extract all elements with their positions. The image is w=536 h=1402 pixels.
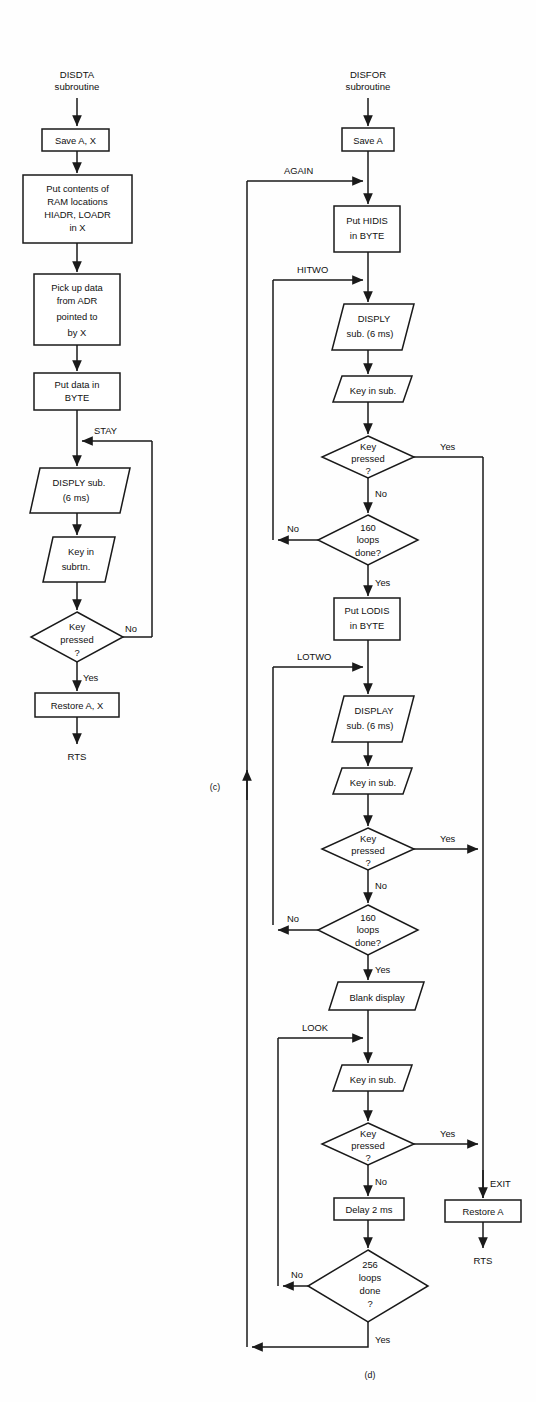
right-label-look: LOOK bbox=[302, 1022, 329, 1033]
right-flowchart: DISFOR subroutine Save A AGAIN Put HIDIS… bbox=[247, 69, 521, 1380]
right-node-160-loops-2-line-1: loops bbox=[357, 924, 380, 935]
right-node-save-a: Save A bbox=[342, 128, 394, 151]
right-node-160-loops-decision-2: 160 loops done? bbox=[318, 905, 418, 955]
right-node-key-pressed-1-line-1: pressed bbox=[351, 453, 384, 464]
right-node-put-lodis-line-1: in BYTE bbox=[350, 620, 384, 631]
left-node-put-contents-ram-line-2: HIADR, LOADR bbox=[44, 209, 111, 220]
right-entry-sublabel: subroutine bbox=[346, 81, 391, 92]
left-exit-label: RTS bbox=[67, 751, 86, 762]
left-node-key-pressed-line-2: ? bbox=[74, 647, 79, 658]
left-node-disply-sub-line-0: DISPLY sub. bbox=[53, 477, 106, 488]
right-node-display-sub-2: DISPLAY sub. (6 ms) bbox=[332, 696, 414, 742]
left-node-key-pressed-line-0: Key bbox=[69, 621, 85, 632]
right-label-no-5: No bbox=[375, 1176, 387, 1187]
right-node-key-pressed-decision-1: Key pressed ? bbox=[322, 436, 414, 478]
right-label-yes-4: Yes bbox=[375, 964, 391, 975]
right-node-restore-a-line-0: Restore A bbox=[462, 1206, 504, 1217]
right-node-256-loops-line-1: loops bbox=[359, 1272, 382, 1283]
right-node-160-loops-1-line-2: done? bbox=[355, 547, 381, 558]
left-node-save-a-x: Save A, X bbox=[42, 129, 109, 151]
left-node-pick-up-data-line-1: from ADR bbox=[57, 295, 98, 306]
left-entry-label: DISDTA bbox=[60, 69, 95, 80]
right-node-key-pressed-2-line-2: ? bbox=[365, 857, 370, 868]
right-label-hitwo: HITWO bbox=[297, 264, 328, 275]
left-node-key-pressed-decision: Key pressed ? bbox=[31, 612, 123, 662]
right-node-256-loops-line-3: ? bbox=[367, 1298, 372, 1309]
right-label-again: AGAIN bbox=[284, 165, 313, 176]
right-node-key-pressed-decision-3: Key pressed ? bbox=[322, 1123, 414, 1165]
right-node-key-pressed-3-line-2: ? bbox=[365, 1152, 370, 1163]
right-node-key-pressed-3-line-1: pressed bbox=[351, 1140, 384, 1151]
left-node-put-contents-ram-line-1: RAM locations bbox=[47, 196, 108, 207]
right-node-display-sub-2-line-0: DISPLAY bbox=[355, 705, 395, 716]
left-node-key-in-subrtn: Key in subrtn. bbox=[43, 537, 115, 582]
left-label-yes: Yes bbox=[83, 672, 99, 683]
right-node-blank-display-line-0: Blank display bbox=[349, 992, 405, 1003]
left-node-pick-up-data-line-2: pointed to bbox=[56, 311, 97, 322]
left-node-put-data-in-byte-line-1: BYTE bbox=[65, 392, 90, 403]
right-node-160-loops-2-line-0: 160 bbox=[360, 912, 376, 923]
right-label-no-6: No bbox=[291, 1269, 303, 1280]
left-flowchart: DISDTA subroutine Save A, X Put contents… bbox=[23, 69, 220, 792]
right-node-256-loops-line-2: done bbox=[360, 1285, 381, 1296]
right-label-yes-3: Yes bbox=[440, 833, 456, 844]
right-node-put-lodis-line-0: Put LODIS bbox=[345, 605, 390, 616]
right-node-key-in-sub-3: Key in sub. bbox=[333, 1065, 412, 1091]
right-label-no-2: No bbox=[287, 523, 299, 534]
right-label-no-3: No bbox=[375, 880, 387, 891]
right-node-key-pressed-1-line-0: Key bbox=[360, 441, 376, 452]
left-node-put-data-in-byte: Put data in BYTE bbox=[34, 373, 120, 410]
left-label-no: No bbox=[125, 623, 137, 634]
right-node-key-pressed-3-line-0: Key bbox=[360, 1128, 376, 1139]
right-label-lotwo: LOTWO bbox=[297, 651, 331, 662]
right-node-key-pressed-1-line-2: ? bbox=[365, 465, 370, 476]
right-label-yes-2: Yes bbox=[375, 577, 391, 588]
right-node-key-pressed-2-line-1: pressed bbox=[351, 845, 384, 856]
right-node-display-sub-2-line-1: sub. (6 ms) bbox=[347, 720, 394, 731]
left-node-put-contents-ram-line-0: Put contents of bbox=[46, 183, 109, 194]
left-node-put-data-in-byte-line-0: Put data in bbox=[55, 379, 100, 390]
right-label-no-1: No bbox=[375, 488, 387, 499]
right-node-key-in-sub-1: Key in sub. bbox=[333, 376, 412, 402]
left-node-disply-sub-line-1: (6 ms) bbox=[63, 492, 90, 503]
right-node-delay-2ms: Delay 2 ms bbox=[334, 1198, 404, 1220]
left-node-restore-a-x-line-0: Restore A, X bbox=[51, 700, 104, 711]
right-figure-caption: (d) bbox=[365, 1370, 376, 1380]
right-node-disply-sub-1-line-1: sub. (6 ms) bbox=[347, 328, 394, 339]
right-node-blank-display: Blank display bbox=[329, 982, 424, 1010]
right-node-key-pressed-decision-2: Key pressed ? bbox=[322, 828, 414, 870]
right-node-key-in-sub-1-line-0: Key in sub. bbox=[350, 385, 396, 396]
left-label-stay: STAY bbox=[94, 425, 118, 436]
right-node-put-hidis-line-0: Put HIDIS bbox=[346, 215, 388, 226]
left-node-pick-up-data-line-3: by X bbox=[68, 327, 88, 338]
right-node-key-pressed-2-line-0: Key bbox=[360, 833, 376, 844]
left-node-put-contents-ram: Put contents of RAM locations HIADR, LOA… bbox=[23, 175, 132, 243]
right-node-key-in-sub-2-line-0: Key in sub. bbox=[350, 777, 396, 788]
right-conn-yes3-to-again bbox=[252, 1322, 368, 1347]
right-label-exit: EXIT bbox=[490, 1178, 511, 1189]
flowchart-canvas: DISDTA subroutine Save A, X Put contents… bbox=[0, 0, 536, 1402]
right-node-disply-sub-1-line-0: DISPLY bbox=[358, 313, 391, 324]
right-node-put-hidis: Put HIDIS in BYTE bbox=[334, 206, 400, 252]
right-node-restore-a: Restore A bbox=[445, 1200, 521, 1222]
right-label-yes-5: Yes bbox=[440, 1128, 456, 1139]
right-node-put-hidis-line-1: in BYTE bbox=[350, 230, 384, 241]
right-node-delay-2ms-line-0: Delay 2 ms bbox=[346, 1204, 393, 1215]
right-label-no-4: No bbox=[287, 913, 299, 924]
left-node-key-pressed-line-1: pressed bbox=[60, 634, 93, 645]
right-label-yes-1: Yes bbox=[440, 441, 456, 452]
right-exit-label: RTS bbox=[473, 1255, 492, 1266]
left-node-key-in-subrtn-line-0: Key in bbox=[68, 546, 94, 557]
right-entry-label: DISFOR bbox=[350, 69, 386, 80]
left-node-put-contents-ram-line-3: in X bbox=[69, 222, 86, 233]
left-entry-sublabel: subroutine bbox=[55, 81, 100, 92]
left-node-pick-up-data: Pick up data from ADR pointed to by X bbox=[34, 274, 120, 345]
left-node-save-a-x-line-0: Save A, X bbox=[55, 135, 97, 146]
left-node-key-in-subrtn-line-1: subrtn. bbox=[62, 561, 91, 572]
left-node-disply-sub: DISPLY sub. (6 ms) bbox=[30, 468, 130, 513]
left-node-restore-a-x: Restore A, X bbox=[35, 693, 119, 717]
right-node-160-loops-1-line-0: 160 bbox=[360, 522, 376, 533]
right-node-disply-sub-1: DISPLY sub. (6 ms) bbox=[332, 304, 414, 350]
right-node-key-in-sub-3-line-0: Key in sub. bbox=[350, 1074, 396, 1085]
right-node-put-lodis: Put LODIS in BYTE bbox=[334, 598, 400, 640]
